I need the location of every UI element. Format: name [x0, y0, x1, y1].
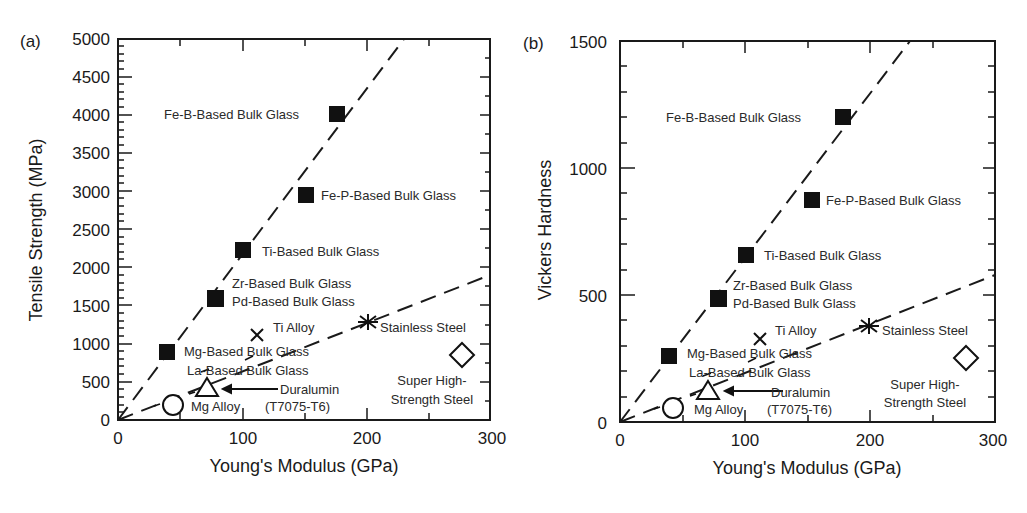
marker-zr-pd-square [710, 290, 727, 307]
y-tick-label: 1000 [72, 335, 110, 354]
x-axis-title-a: Young's Modulus (GPa) [210, 456, 399, 476]
label-zr: Zr-Based Bulk Glass [733, 278, 853, 293]
label-shs-1: Super High- [397, 373, 466, 388]
marker-stainless-asterisk [859, 318, 879, 334]
label-fe-p: Fe-P-Based Bulk Glass [321, 188, 457, 203]
markers-a [159, 106, 345, 360]
marker-mg-la-square [159, 344, 175, 360]
label-stainless: Stainless Steel [380, 320, 466, 335]
marker-fe-b-square [835, 109, 851, 125]
figure: (a) 0 500 1000 1500 2000 2500 3000 3500 … [0, 0, 1027, 513]
y-axis-title-b: Vickers Hardness [535, 160, 555, 301]
x-tick-labels-a: 0 100 200 300 [113, 429, 506, 448]
label-pd: Pd-Based Bulk Glass [232, 294, 355, 309]
label-duralumin: Duralumin [280, 382, 339, 397]
y-tick-label: 2000 [72, 259, 110, 278]
marker-ti-alloy-x [754, 333, 766, 345]
marker-mg-la-square [661, 348, 677, 364]
chart-b: (b) 0 500 1000 1500 0 100 200 300 Young'… [523, 33, 1007, 478]
label-mg-bg: Mg-Based Bulk Glass [184, 344, 309, 359]
marker-shs-diamond [954, 346, 978, 370]
marker-duralumin-triangle [196, 378, 218, 396]
label-ti-alloy: Ti Alloy [775, 323, 817, 338]
chart-a: (a) 0 500 1000 1500 2000 2500 3000 3500 … [20, 30, 506, 476]
label-ti-bg: Ti-Based Bulk Glass [262, 244, 380, 259]
panel-label-a: (a) [20, 32, 41, 51]
x-tick-label: 200 [856, 431, 884, 450]
marker-stainless-asterisk [358, 314, 378, 330]
y-tick-label: 0 [101, 411, 110, 430]
marker-fe-b-square [329, 106, 345, 122]
marker-fe-p-square [298, 187, 314, 203]
x-axis-title-b: Young's Modulus (GPa) [713, 458, 902, 478]
marker-fe-p-square [804, 192, 820, 208]
marker-mg-alloy-circle [163, 395, 183, 415]
marker-shs-diamond [450, 343, 474, 367]
label-ti-alloy: Ti Alloy [273, 320, 315, 335]
marker-mg-alloy-circle [663, 398, 683, 418]
y-tick-labels-a: 0 500 1000 1500 2000 2500 3000 3500 4000… [72, 30, 110, 430]
label-mg-alloy: Mg Alloy [694, 402, 744, 417]
label-la-bg: La-Based Bulk Glass [689, 365, 811, 380]
marker-zr-pd-square [207, 290, 224, 307]
label-la-bg: La-Based Bulk Glass [187, 363, 309, 378]
label-duralumin: Duralumin [771, 385, 830, 400]
y-tick-label: 3500 [72, 144, 110, 163]
y-tick-label: 1000 [569, 160, 607, 179]
arrowhead-icon [725, 387, 733, 395]
label-ti-bg: Ti-Based Bulk Glass [764, 248, 882, 263]
y-axis-title-a: Tensile Strength (MPa) [26, 138, 46, 321]
label-duralumin-grade: (T7075-T6) [767, 402, 832, 417]
label-mg-alloy: Mg Alloy [191, 399, 241, 414]
label-mg-bg: Mg-Based Bulk Glass [687, 346, 812, 361]
label-shs-2: Strength Steel [884, 395, 966, 410]
y-tick-label: 5000 [72, 30, 110, 49]
x-tick-label: 300 [478, 429, 506, 448]
x-tick-label: 300 [979, 431, 1007, 450]
label-shs-1: Super High- [890, 377, 959, 392]
y-tick-label: 4000 [72, 106, 110, 125]
x-tick-label: 0 [113, 429, 122, 448]
y-tick-label: 500 [82, 373, 110, 392]
y-tick-label: 3000 [72, 183, 110, 202]
y-tick-label: 500 [579, 287, 607, 306]
arrowhead-icon [223, 385, 231, 393]
x-tick-label: 100 [229, 429, 257, 448]
marker-ti-bg-square [235, 242, 251, 258]
label-duralumin-grade: (T7075-T6) [265, 399, 330, 414]
y-tick-label: 1500 [569, 33, 607, 52]
marker-ti-alloy-x [251, 329, 263, 341]
y-tick-labels-b: 0 500 1000 1500 [569, 33, 607, 433]
panel-label-b: (b) [523, 34, 544, 53]
label-zr: Zr-Based Bulk Glass [232, 276, 352, 291]
label-shs-2: Strength Steel [391, 392, 473, 407]
x-tick-label: 100 [731, 431, 759, 450]
label-fe-b: Fe-B-Based Bulk Glass [666, 110, 802, 125]
label-fe-p: Fe-P-Based Bulk Glass [826, 193, 962, 208]
label-stainless: Stainless Steel [882, 323, 968, 338]
x-tick-label: 200 [353, 429, 381, 448]
y-tick-label: 0 [598, 414, 607, 433]
marker-ti-bg-square [738, 247, 754, 263]
y-tick-label: 2500 [72, 221, 110, 240]
x-tick-label: 0 [615, 431, 624, 450]
label-fe-b: Fe-B-Based Bulk Glass [164, 107, 300, 122]
y-tick-label: 4500 [72, 68, 110, 87]
y-tick-label: 1500 [72, 297, 110, 316]
x-tick-labels-b: 0 100 200 300 [615, 431, 1007, 450]
markers-b [661, 109, 851, 364]
label-pd: Pd-Based Bulk Glass [733, 296, 856, 311]
